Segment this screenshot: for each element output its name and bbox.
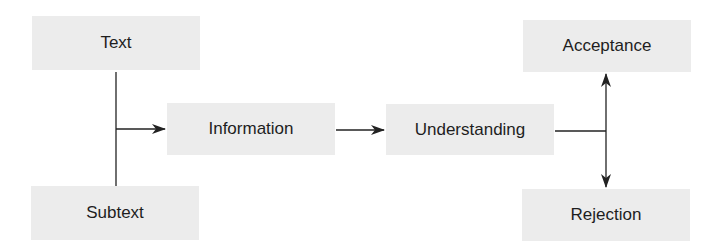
node-subtext: Subtext [31,186,199,240]
node-information-label: Information [208,119,293,139]
node-information: Information [167,103,335,155]
node-text-label: Text [100,33,131,53]
node-understanding-label: Understanding [415,120,526,140]
node-understanding: Understanding [386,104,554,155]
node-acceptance: Acceptance [523,20,691,72]
node-text: Text [32,16,200,70]
node-acceptance-label: Acceptance [563,36,652,56]
node-rejection-label: Rejection [571,205,642,225]
flow-diagram: Text Subtext Information Understanding A… [0,0,722,248]
node-rejection: Rejection [522,189,690,241]
node-subtext-label: Subtext [86,203,144,223]
